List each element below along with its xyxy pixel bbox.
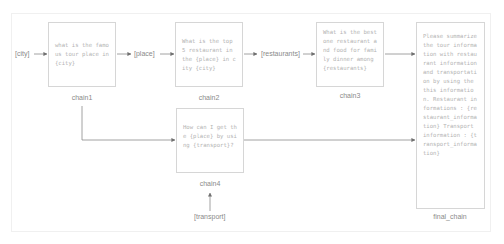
chain1-label: chain1 [72, 94, 93, 101]
chain3-box[interactable]: What is the best one restaurant and food… [316, 22, 384, 87]
final-chain-prompt: Please summarize the tour information wi… [423, 32, 480, 158]
chain3-prompt: What is the best one restaurant and food… [323, 28, 379, 73]
chain4-label: chain4 [200, 180, 221, 187]
input-transport: [transport] [194, 213, 226, 220]
final-chain-label: final_chain [433, 213, 466, 220]
chain2-prompt: What is the top 5 restaurant in the {pla… [182, 37, 238, 73]
chain4-box[interactable]: How can I get the {place} by using {tran… [176, 108, 244, 173]
input-restaurants: [restaurants] [261, 50, 300, 57]
chain2-box[interactable]: What is the top 5 restaurant in the {pla… [175, 22, 243, 87]
final-chain-box[interactable]: Please summarize the tour information wi… [416, 22, 485, 209]
chain2-label: chain2 [199, 94, 220, 101]
chain3-label: chain3 [340, 92, 361, 99]
input-place: [place] [134, 50, 155, 57]
chain1-prompt: what is the famous tour place in {city} [55, 41, 111, 68]
chain4-prompt: How can I get the {place} by using {tran… [183, 123, 239, 150]
chain1-box[interactable]: what is the famous tour place in {city} [48, 22, 116, 87]
input-city: [city] [15, 50, 29, 57]
